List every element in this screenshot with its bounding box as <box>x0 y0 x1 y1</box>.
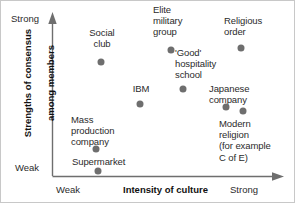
data-point-marker <box>95 168 102 175</box>
data-point-label: 'Good' hospitality school <box>175 47 231 81</box>
x-axis-tick-strong: Strong <box>230 184 258 195</box>
plot-area: Strong Weak Weak Strong Intensity of cul… <box>1 1 295 203</box>
data-point-marker <box>238 45 245 52</box>
culture-scatter-chart: Strong Weak Weak Strong Intensity of cul… <box>0 0 295 203</box>
data-point-marker <box>93 146 100 153</box>
y-axis-tick-weak: Weak <box>15 162 39 173</box>
data-point-label: Religious order <box>224 15 274 37</box>
y-axis-title-line1: Strengths of consensus <box>22 29 33 137</box>
data-point-label: Modern religion (for example C of E) <box>219 118 285 163</box>
x-axis-title: Intensity of culture <box>123 184 208 195</box>
data-point-label: Elite military group <box>153 4 197 38</box>
data-point-label: Social club <box>81 27 123 49</box>
data-point-marker <box>223 104 230 111</box>
data-point-label: IBM <box>129 83 153 94</box>
x-axis-arrowhead <box>272 172 284 180</box>
data-point-label: Mass production company <box>71 114 127 148</box>
y-axis-title: Strengths of consensus among members <box>10 21 68 161</box>
data-point-marker <box>98 59 105 66</box>
data-point-marker <box>240 108 247 115</box>
data-point-label: Supermarket <box>72 156 140 167</box>
x-axis-tick-weak: Weak <box>56 184 80 195</box>
data-point-marker <box>137 101 144 108</box>
y-axis-title-line2: among members <box>45 45 56 121</box>
data-point-label: Japanese company <box>209 83 261 105</box>
data-point-marker <box>168 47 175 54</box>
data-point-marker <box>180 86 187 93</box>
